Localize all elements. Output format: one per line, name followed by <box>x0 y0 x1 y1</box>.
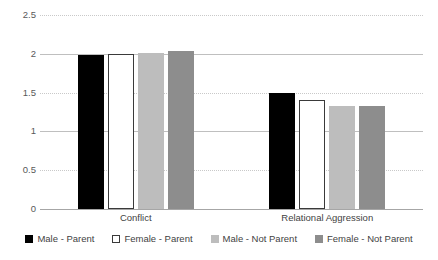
x-tick-label: Relational Aggression <box>281 212 373 223</box>
legend-item-label: Male - Parent <box>37 234 94 244</box>
legend-item[interactable]: Male - Parent <box>25 234 94 244</box>
legend-swatch-icon <box>112 235 120 243</box>
bar <box>359 106 385 209</box>
legend-item[interactable]: Male - Not Parent <box>211 234 297 244</box>
bar <box>329 106 355 209</box>
legend-item-label: Male - Not Parent <box>223 234 297 244</box>
bar <box>108 54 134 209</box>
legend-swatch-icon <box>211 235 219 243</box>
y-tick-label: 2.5 <box>4 10 36 20</box>
bar-chart: 0 0.5 1 1.5 2 2.5 Conflict Relational Ag… <box>0 0 438 260</box>
y-tick-label: 1.5 <box>4 88 36 98</box>
y-tick-label: 0 <box>4 204 36 214</box>
bar <box>269 93 295 209</box>
legend-item[interactable]: Female - Parent <box>112 234 192 244</box>
x-tick-label: Conflict <box>120 212 152 223</box>
bar <box>168 51 194 209</box>
x-axis: Conflict Relational Aggression <box>40 210 423 228</box>
y-tick-label: 0.5 <box>4 165 36 175</box>
legend-swatch-icon <box>315 235 323 243</box>
legend-swatch-icon <box>25 235 33 243</box>
y-tick-label: 2 <box>4 49 36 59</box>
bar <box>138 53 164 209</box>
legend-item-label: Female - Parent <box>124 234 192 244</box>
plot-area <box>40 15 423 209</box>
bar <box>78 55 104 209</box>
bar <box>299 100 325 209</box>
y-axis: 0 0.5 1 1.5 2 2.5 <box>0 15 36 209</box>
legend-item[interactable]: Female - Not Parent <box>315 234 413 244</box>
chart-legend: Male - Parent Female - Parent Male - Not… <box>0 231 438 247</box>
legend-item-label: Female - Not Parent <box>327 234 413 244</box>
gridline <box>40 15 423 16</box>
y-tick-label: 1 <box>4 127 36 137</box>
